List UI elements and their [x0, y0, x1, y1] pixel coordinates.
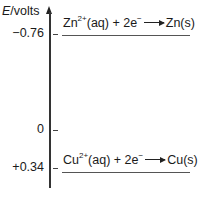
electron-charge: − [139, 151, 144, 160]
zn-half-reaction: Zn2+(aq) + 2e−Zn(s) [63, 16, 195, 30]
state: (aq) [87, 16, 109, 30]
axis-unit: /volts [10, 4, 39, 18]
tick-label-cu: +0.34 [0, 160, 44, 174]
tick-mark-zero [53, 130, 58, 131]
y-axis [49, 12, 51, 188]
cu-level-line [62, 172, 190, 173]
ion: Zn [63, 16, 78, 30]
reaction-arrow-icon [145, 159, 165, 160]
tick-label-zn: −0.76 [0, 26, 44, 40]
ion: Cu [63, 153, 79, 167]
cu-half-reaction: Cu2+(aq) + 2e−Cu(s) [63, 153, 198, 167]
tick-mark-cu [53, 168, 58, 169]
tick-label-zero: 0 [0, 122, 44, 136]
charge: 2+ [79, 151, 88, 160]
electron-charge: − [137, 14, 142, 23]
tick-mark-zn [53, 34, 58, 35]
electrons: + 2e [109, 16, 137, 30]
state: (aq) [88, 153, 110, 167]
zn-level-line [62, 35, 190, 36]
y-axis-label: E/volts [2, 4, 40, 18]
electrons: + 2e [110, 153, 138, 167]
product: Cu(s) [167, 153, 198, 167]
charge: 2+ [78, 14, 87, 23]
product: Zn(s) [166, 16, 195, 30]
reaction-arrow-icon [144, 22, 164, 23]
